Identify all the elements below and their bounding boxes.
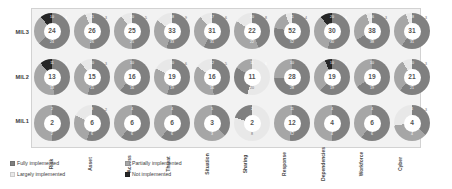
row-label-mil3: MIL3: [0, 29, 29, 35]
segment-label: 3: [105, 63, 107, 67]
segment-label: 19: [330, 87, 334, 91]
donut-center: 25: [124, 23, 141, 40]
donut-mil1-threat[interactable]: 646: [152, 104, 192, 144]
donut-center: 19: [364, 69, 381, 86]
legend-item-not-implemented[interactable]: Not implemented: [125, 169, 225, 180]
donut-mil2-dependencies[interactable]: 1910219: [312, 58, 352, 98]
legend-swatch-icon: [125, 172, 130, 177]
segment-label: 19: [170, 87, 174, 91]
donut-mil2-access[interactable]: 161016: [112, 58, 152, 98]
donut-center: 24: [44, 23, 61, 40]
row-label-mil2: MIL2: [0, 74, 29, 80]
donut-mil1-dependencies[interactable]: 444: [312, 104, 352, 144]
donut-mil3-risk[interactable]: 2410424: [32, 12, 72, 52]
segment-label: 25: [130, 41, 134, 45]
donut-center: 6: [124, 115, 141, 132]
segment-label: 3: [211, 133, 213, 137]
donut-center-value: 38: [368, 28, 375, 35]
segment-label: 28: [290, 87, 294, 91]
segment-label: 10: [330, 62, 334, 66]
legend-swatch-icon: [10, 161, 15, 166]
donut-center: 13: [44, 69, 61, 86]
donut-center-value: 21: [408, 74, 415, 81]
donut-mil3-dependencies[interactable]: 3020630: [312, 12, 352, 52]
segment-label: 12: [290, 133, 294, 137]
segment-label: 5: [225, 63, 227, 67]
donut-center: 21: [404, 69, 421, 86]
donut-center-value: 6: [130, 120, 134, 127]
x-tick-label: Sharing: [242, 155, 248, 174]
segment-label: 13: [50, 87, 54, 91]
donut-center-value: 4: [330, 120, 334, 127]
donut-mil2-asset[interactable]: 1510315: [72, 58, 112, 98]
segment-label: 4: [411, 133, 413, 137]
donut-mil3-workforce[interactable]: 3816338: [352, 12, 392, 52]
segment-label: 3: [425, 63, 427, 67]
donut-mil3-cyber[interactable]: 3118331: [392, 12, 432, 52]
donut-mil1-asset[interactable]: 6326: [72, 104, 112, 144]
legend-item-partially-implemented[interactable]: Partially implemented: [125, 158, 225, 169]
donut-center: 28: [284, 69, 301, 86]
donut-mil3-asset[interactable]: 2621326: [72, 12, 112, 52]
donut-mil2-workforce[interactable]: 191019: [352, 58, 392, 98]
segment-label: 16: [370, 16, 374, 20]
segment-label: 30: [330, 41, 334, 45]
segment-label: 6: [225, 17, 227, 21]
segment-label: 2: [51, 108, 53, 112]
segment-label: 11: [50, 62, 54, 66]
legend-item-largely-implemented[interactable]: Largely implemented: [10, 169, 125, 180]
x-tick-dependencies: Dependencies: [304, 149, 343, 183]
donut-mil3-response[interactable]: 5211452: [272, 12, 312, 52]
segment-label: 8: [251, 133, 253, 137]
donut-mil1-sharing[interactable]: 822: [232, 104, 272, 144]
segment-label: 26: [90, 41, 94, 45]
segment-label: 4: [65, 17, 67, 21]
donut-mil2-threat[interactable]: 1910619: [152, 58, 192, 98]
donut-center: 16: [204, 69, 221, 86]
donut-center-value: 31: [208, 28, 215, 35]
donut-center: 2: [44, 115, 61, 132]
x-tick-workforce: Workforce: [342, 149, 381, 183]
donut-mil2-situation[interactable]: 1612516: [192, 58, 232, 98]
donut-center: 4: [324, 115, 341, 132]
segment-label: 4: [411, 108, 413, 112]
donut-mil2-risk[interactable]: 1311313: [32, 58, 72, 98]
segment-label: 4: [331, 108, 333, 112]
donut-center: 19: [164, 69, 181, 86]
donut-mil1-access[interactable]: 646: [112, 104, 152, 144]
donut-center-value: 12: [288, 120, 295, 127]
legend-item-fully-implemented[interactable]: Fully implemented: [10, 158, 125, 169]
segment-label: 19: [370, 87, 374, 91]
donut-center: 2: [244, 115, 261, 132]
donut-center-value: 16: [208, 74, 215, 81]
donut-mil3-threat[interactable]: 3318933: [152, 12, 192, 52]
segment-label: 2: [105, 109, 107, 113]
donut-center: 11: [244, 69, 261, 86]
segment-label: 10: [50, 16, 54, 20]
donut-mil1-workforce[interactable]: 646: [352, 104, 392, 144]
donut-center-value: 52: [288, 28, 295, 35]
donut-mil1-situation[interactable]: 353: [192, 104, 232, 144]
segment-label: 6: [371, 133, 373, 137]
legend-label: Not implemented: [132, 172, 171, 177]
donut-mil2-sharing[interactable]: 2011611: [232, 58, 272, 98]
donut-mil1-risk[interactable]: 222: [32, 104, 72, 144]
x-tick-response: Response: [265, 149, 304, 183]
donut-center-value: 31: [408, 28, 415, 35]
segment-label: 24: [50, 41, 54, 45]
donut-mil1-response[interactable]: 121112: [272, 104, 312, 144]
donut-mil2-response[interactable]: 281028: [272, 58, 312, 98]
segment-label: 17: [210, 16, 214, 20]
donut-center: 15: [84, 69, 101, 86]
donut-mil3-sharing[interactable]: 2220822: [232, 12, 272, 52]
donut-mil3-access[interactable]: 2520525: [112, 12, 152, 52]
donut-center-value: 19: [328, 74, 335, 81]
segment-label: 10: [170, 62, 174, 66]
donut-mil3-situation[interactable]: 3117631: [192, 12, 232, 52]
donut-center-value: 2: [250, 120, 254, 127]
row-label-mil1: MIL1: [0, 118, 29, 124]
donut-mil1-cyber[interactable]: 4434: [392, 104, 432, 144]
x-tick-label: Workforce: [359, 152, 365, 177]
segment-label: 20: [250, 87, 254, 91]
donut-mil2-cyber[interactable]: 2110321: [392, 58, 432, 98]
